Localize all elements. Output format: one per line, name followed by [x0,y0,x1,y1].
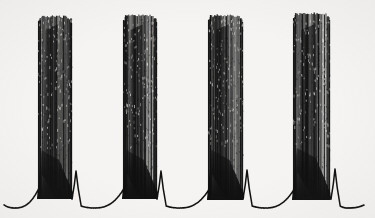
membrane-potential-trace [0,0,375,218]
electrophysiology-figure: Intracellular membrane potential recordi… [0,0,375,218]
